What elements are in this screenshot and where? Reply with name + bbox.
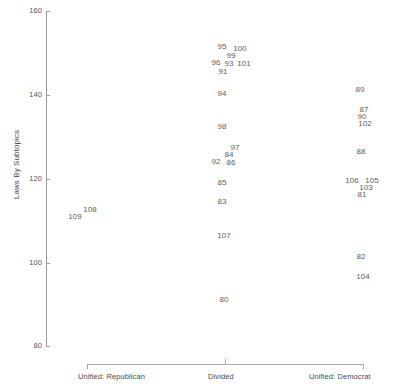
y-axis-tick-label-text: 120 [18, 175, 42, 183]
y-axis-tick-label: 100 [16, 259, 42, 267]
y-axis-tick-label: 160 [16, 7, 42, 15]
y-axis-title: Laws By Subtopics [12, 105, 21, 225]
scatter-plot: Laws By Subtopics 16014012010080 Unified… [0, 0, 396, 389]
data-point-label: 107 [217, 231, 231, 240]
data-point-label: 85 [217, 178, 226, 187]
y-axis-tick-label-text: 140 [18, 91, 42, 99]
x-axis-tick-label: Unified: Democrat [309, 372, 371, 381]
y-axis-tick-label-text: 100 [18, 259, 42, 267]
data-point-label: 86 [226, 158, 235, 167]
data-point-label: 89 [355, 85, 364, 94]
x-axis-middle-tick [225, 359, 226, 364]
y-axis-tick-mark [46, 11, 50, 12]
data-point-label: 95 [217, 42, 226, 51]
data-point-label: 102 [358, 119, 372, 128]
data-point-label: 109 [68, 212, 82, 221]
y-axis-tick-mark [46, 263, 50, 264]
x-axis-tick-label: Unified: Republican [78, 372, 145, 381]
y-axis-tick-mark [46, 346, 50, 347]
data-point-label: 94 [217, 89, 226, 98]
y-axis-tick-mark [46, 179, 50, 180]
data-point-label: 108 [83, 205, 97, 214]
x-axis-right-cap [363, 364, 364, 369]
data-point-label: 88 [356, 147, 365, 156]
y-axis-tick-label: 140 [16, 91, 42, 99]
y-axis-tick-label: 80 [16, 342, 42, 350]
data-point-label: 80 [219, 295, 228, 304]
data-point-label: 101 [237, 59, 251, 68]
data-point-label: 91 [218, 67, 227, 76]
data-point-label: 104 [356, 272, 370, 281]
y-axis-tick-label-text: 160 [18, 7, 42, 15]
data-point-label: 92 [211, 157, 220, 166]
y-axis-tick-label: 120 [16, 175, 42, 183]
x-axis-tick-label: Divided [208, 372, 234, 381]
data-point-label: 83 [217, 197, 226, 206]
data-point-label: 106 [345, 176, 359, 185]
y-axis-tick-mark [46, 95, 50, 96]
data-point-label: 82 [356, 252, 365, 261]
data-point-label: 96 [211, 58, 220, 67]
data-point-label: 98 [217, 122, 226, 131]
x-axis-left-cap [87, 364, 88, 369]
x-axis-line [87, 364, 363, 365]
data-point-label: 81 [357, 190, 366, 199]
y-axis-tick-label-text: 80 [18, 342, 42, 350]
